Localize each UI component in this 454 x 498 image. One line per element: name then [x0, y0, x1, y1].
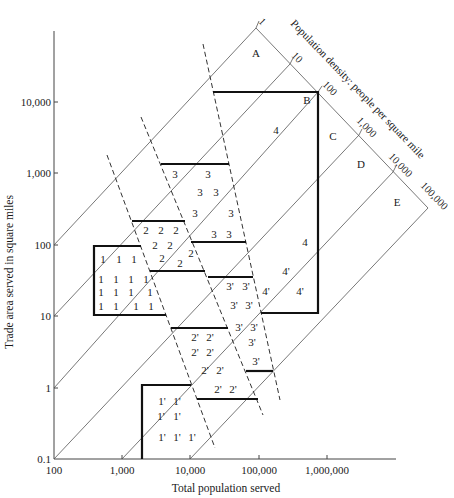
svg-text:1: 1: [113, 300, 119, 312]
svg-text:2': 2': [214, 383, 222, 395]
svg-text:3: 3: [228, 207, 234, 219]
svg-text:3': 3': [242, 280, 250, 292]
density-axis-title: Population density: people per square mi…: [289, 17, 428, 161]
svg-text:1': 1': [173, 410, 181, 422]
x-tick: 100,000: [241, 464, 277, 476]
svg-text:4: 4: [273, 124, 279, 136]
x-tick: 1,000: [110, 464, 135, 476]
svg-text:3: 3: [213, 186, 219, 198]
svg-text:1: 1: [133, 300, 139, 312]
y-tick-labels: 0.1 1 10 100 1,000 10,000: [21, 96, 52, 465]
density-line-100: [54, 92, 318, 388]
svg-text:1: 1: [113, 273, 119, 285]
y-tick: 1,000: [26, 167, 51, 179]
svg-text:1: 1: [98, 300, 104, 312]
density-line-1: [54, 28, 256, 245]
svg-text:3': 3': [235, 321, 243, 333]
svg-text:4': 4': [296, 285, 304, 297]
svg-text:4': 4': [262, 285, 270, 297]
svg-text:1: 1: [113, 286, 119, 298]
svg-text:2': 2': [206, 331, 214, 343]
density-scale: [256, 21, 428, 208]
svg-text:1': 1': [158, 431, 166, 443]
svg-text:1: 1: [143, 273, 149, 285]
y-tick: 1: [46, 382, 52, 394]
svg-text:2: 2: [173, 224, 179, 236]
svg-text:1: 1: [116, 253, 122, 265]
svg-text:3: 3: [172, 168, 178, 180]
region-labels: 1 1 1 1 1 1 1 1 1 1 1 1 1 1 1 2 2 2 2 2 …: [98, 124, 308, 443]
svg-text:1': 1': [188, 431, 196, 443]
density-tick-labels: 1 10 100 1,000 10,000 100,000 Population…: [257, 16, 451, 212]
svg-text:1': 1': [158, 395, 166, 407]
svg-text:3': 3': [250, 321, 258, 333]
svg-text:1: 1: [98, 273, 104, 285]
svg-text:2: 2: [188, 247, 194, 259]
svg-text:2': 2': [216, 364, 224, 376]
svg-text:2: 2: [143, 224, 149, 236]
x-axis-label: Total population served: [172, 482, 281, 495]
svg-text:1: 1: [98, 286, 104, 298]
order-1p-box: [142, 385, 191, 459]
svg-text:2: 2: [159, 252, 165, 264]
svg-text:A: A: [252, 47, 260, 59]
svg-text:2': 2': [201, 364, 209, 376]
x-tick: 1,000,000: [305, 464, 350, 476]
svg-text:D: D: [357, 158, 365, 170]
svg-text:C: C: [329, 130, 336, 142]
svg-text:1: 1: [128, 273, 134, 285]
svg-text:1': 1': [157, 410, 165, 422]
svg-text:1': 1': [173, 395, 181, 407]
svg-text:2: 2: [152, 239, 158, 251]
svg-text:4': 4': [282, 265, 290, 277]
svg-text:3': 3': [226, 280, 234, 292]
svg-text:4: 4: [302, 236, 308, 248]
y-tick: 10: [40, 310, 52, 322]
svg-text:2': 2': [206, 346, 214, 358]
svg-text:1: 1: [257, 16, 269, 27]
svg-text:100,000: 100,000: [419, 180, 451, 212]
svg-text:B: B: [303, 94, 310, 106]
population-trade-area-chart: 0.1 1 10 100 1,000 10,000 100 1,000 10,0…: [0, 0, 454, 498]
svg-text:1': 1': [173, 431, 181, 443]
svg-text:E: E: [394, 196, 401, 208]
svg-text:2': 2': [229, 383, 237, 395]
x-tick: 100: [46, 464, 63, 476]
svg-text:3: 3: [192, 207, 198, 219]
svg-text:3: 3: [211, 228, 217, 240]
x-tick-labels: 100 1,000 10,000 100,000 1,000,000: [46, 464, 350, 476]
density-line-10: [54, 64, 290, 316]
svg-text:3: 3: [205, 168, 211, 180]
svg-text:3': 3': [248, 336, 256, 348]
svg-text:1: 1: [131, 253, 137, 265]
y-tick: 100: [35, 239, 52, 251]
svg-text:2: 2: [167, 239, 173, 251]
dashed-line-3: [203, 44, 280, 400]
svg-text:2': 2': [191, 331, 199, 343]
svg-text:2: 2: [158, 224, 164, 236]
x-tick: 10,000: [175, 464, 206, 476]
svg-text:10: 10: [290, 50, 305, 65]
svg-text:2: 2: [177, 257, 183, 269]
svg-text:1: 1: [128, 286, 134, 298]
svg-text:100: 100: [321, 79, 340, 98]
svg-text:2': 2': [191, 346, 199, 358]
density-line-100000: [190, 208, 428, 459]
svg-text:3': 3': [245, 299, 253, 311]
svg-text:1: 1: [100, 253, 106, 265]
svg-text:1: 1: [148, 300, 154, 312]
y-tick: 10,000: [21, 96, 52, 108]
svg-text:3': 3': [252, 355, 260, 367]
svg-text:1: 1: [147, 286, 153, 298]
y-axis-label: Trade area served in square miles: [3, 195, 16, 349]
svg-text:3': 3': [230, 299, 238, 311]
svg-text:3: 3: [197, 186, 203, 198]
